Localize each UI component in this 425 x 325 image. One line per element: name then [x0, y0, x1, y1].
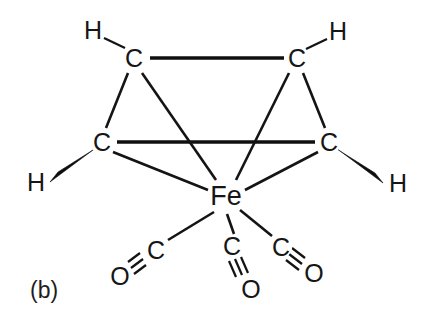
- atom-label-h-top-right: H: [329, 17, 347, 45]
- atom-label-c-mid-left: C: [93, 128, 111, 156]
- atom-label-c-mid-right: C: [320, 128, 338, 156]
- chemical-structure-diagram: H H H H C C C C Fe C C C O O O (b): [0, 0, 425, 325]
- atom-label-co-left-o: O: [110, 262, 129, 290]
- bond-c-mid-right-fe: [245, 152, 318, 190]
- triple-bond-co-left: [128, 253, 146, 274]
- figure-container: H H H H C C C C Fe C C C O O O (b): [0, 0, 425, 325]
- atom-label-co-left-c: C: [147, 236, 165, 264]
- bond-c-top-left-c-mid-left: [106, 73, 128, 128]
- bond-c-mid-left-fe: [113, 152, 208, 190]
- bond-fe-co-right: [240, 210, 272, 236]
- bond-c-top-right-h: [306, 39, 327, 49]
- bond-c-top-right-fe: [236, 73, 289, 180]
- atom-label-fe: Fe: [210, 181, 242, 211]
- atom-label-h-top-left: H: [84, 16, 102, 44]
- triple-bond-co-center: [229, 257, 248, 277]
- bond-fe-co-center: [227, 214, 234, 234]
- atom-label-co-right-c: C: [272, 233, 290, 261]
- atom-label-c-top-right: C: [288, 44, 306, 72]
- atom-label-c-top-left: C: [125, 44, 143, 72]
- panel-label: (b): [30, 277, 58, 303]
- atom-label-h-mid-right: H: [389, 169, 407, 197]
- atom-label-co-right-o: O: [304, 259, 323, 287]
- atom-label-co-center-o: O: [241, 275, 260, 303]
- bond-c-top-left-fe: [142, 73, 216, 180]
- atom-label-h-mid-left: H: [27, 168, 45, 196]
- bond-fe-co-left: [168, 212, 214, 240]
- wedge-bond-c-mid-left-h: [50, 147, 97, 182]
- bond-c-top-left-h: [104, 38, 125, 48]
- bond-c-top-right-c-mid-right: [303, 73, 325, 128]
- wedge-bond-c-mid-right-h: [336, 148, 383, 183]
- atom-label-co-center-c: C: [223, 232, 241, 260]
